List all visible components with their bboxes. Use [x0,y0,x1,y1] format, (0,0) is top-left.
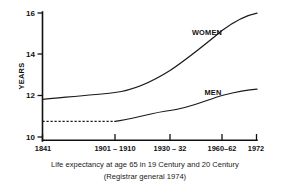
y-tick-label-16: 16 [26,9,35,18]
caption-line-1: Life expectancy at age 65 in 19 Century … [51,160,239,169]
x-axis-ticks [43,134,257,140]
caption-line-2: (Registrar general 1974) [104,172,187,181]
y-axis-tick-labels: 16 14 12 10 [26,9,35,142]
line-chart-canvas: 16 14 12 10 YEARS 1841 1901 – 1910 1930 … [0,0,285,185]
y-tick-label-10: 10 [26,133,35,142]
x-tick-label-1841: 1841 [35,144,51,153]
chart-figure: 16 14 12 10 YEARS 1841 1901 – 1910 1930 … [0,0,285,185]
y-tick-label-14: 14 [26,50,35,59]
x-tick-label-1901-1910: 1901 – 1910 [94,144,135,153]
series-line-women [43,13,258,99]
x-axis-tick-labels: 1841 1901 – 1910 1930 – 32 1960–62 1972 [35,144,264,153]
series-line-men [115,89,257,121]
x-tick-label-1972: 1972 [248,144,264,153]
series-label-women: WOMEN [192,28,222,37]
x-tick-label-1960-62: 1960–62 [208,144,237,153]
series-label-men: MEN [204,88,221,97]
y-axis-title: YEARS [17,63,26,90]
y-tick-label-12: 12 [26,91,35,100]
x-tick-label-1930-32: 1930 – 32 [154,144,187,153]
